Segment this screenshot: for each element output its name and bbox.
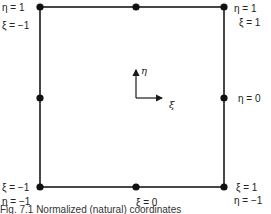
node-mid-left — [36, 94, 43, 101]
node-bottom-mid — [132, 183, 139, 190]
diagram-canvas — [0, 0, 271, 214]
label-top-right-eta: η = 1 — [234, 3, 257, 14]
label-bottom-right-xi: ξ = 1 — [236, 182, 257, 193]
element-square — [40, 7, 224, 187]
nodes — [36, 3, 227, 190]
xi-axis-label: ξ — [169, 99, 175, 110]
node-bottom-right — [220, 183, 227, 190]
eta-axis-label: η — [141, 65, 147, 76]
label-mid-right-eta: η = 0 — [238, 93, 261, 104]
label-top-right-xi: ξ = 1 — [239, 17, 260, 28]
node-mid-right — [220, 94, 227, 101]
label-top-left-eta: η = 1 — [2, 2, 25, 13]
node-top-mid — [132, 3, 139, 10]
label-bottom-left-xi: ξ = −1 — [2, 182, 29, 193]
label-top-left-xi: ξ = −1 — [2, 20, 29, 31]
node-top-right — [220, 3, 227, 10]
label-bottom-right-eta: η = −1 — [234, 195, 262, 206]
figure-caption: Fig. 7.1 Normalized (natural) coordinate… — [0, 204, 181, 214]
node-bottom-left — [36, 183, 43, 190]
node-top-left — [36, 3, 43, 10]
